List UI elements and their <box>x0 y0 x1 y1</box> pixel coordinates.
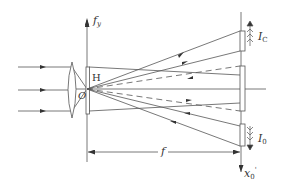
label-f: f <box>158 146 168 157</box>
ray-arrowheads <box>40 52 193 124</box>
fy-arrowhead <box>85 18 89 25</box>
mirror-top <box>240 31 245 51</box>
ic-arrow <box>247 21 253 46</box>
h-plate <box>86 67 90 114</box>
optical-diagram <box>0 0 286 185</box>
i0-arrow <box>247 126 253 150</box>
rays-bottom <box>87 89 240 146</box>
rays-top <box>87 31 240 89</box>
label-fy-sub: y <box>97 20 101 28</box>
label-x0-sub: 0 <box>250 173 254 181</box>
label-i0-sub: 0 <box>262 138 266 146</box>
mirror-bottom <box>240 124 245 146</box>
mirror-middle <box>240 66 245 111</box>
label-o: O <box>78 91 86 101</box>
label-ic-sub: C <box>262 36 267 44</box>
label-x0-sup: ' <box>255 166 257 174</box>
label-i0: I0 <box>258 133 267 146</box>
label-ic: IC <box>258 31 268 44</box>
label-fy: fy <box>93 15 101 28</box>
label-h: H <box>92 73 101 83</box>
label-x0: x0' <box>244 167 257 181</box>
